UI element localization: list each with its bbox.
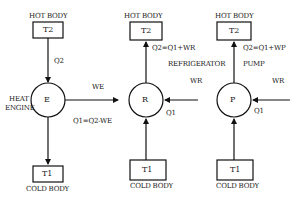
engine-name-line1: HEAT xyxy=(9,96,29,103)
pump-q2-label: Q2=Q1+WP xyxy=(243,45,285,52)
engine-q2-label: Q2 xyxy=(54,58,64,65)
engine-name-line2: ENGINE xyxy=(5,105,35,112)
pump-hot-label: HOT BODY xyxy=(215,13,253,20)
pump-hot-box-text: T2 xyxy=(229,27,239,35)
engine-q1-label: Q1=Q2-WE xyxy=(73,118,112,125)
refrigerator-q2-label: Q2=Q1+WR xyxy=(152,45,195,52)
pump-work-label: WR xyxy=(272,78,284,85)
refrigerator-q1-label: Q1 xyxy=(166,110,176,117)
refrigerator-hot-box-text: T2 xyxy=(141,27,151,35)
engine-work-label: WE xyxy=(92,84,104,91)
engine-hot-label: HOT BODY xyxy=(29,13,67,20)
pump-name-label: PUMP xyxy=(243,61,265,68)
pump-cold-box-text: T1 xyxy=(230,166,240,174)
refrigerator-name-label: REFRIGERATOR xyxy=(168,61,225,68)
refrigerator-work-label: WR xyxy=(190,78,202,85)
refrigerator-hot-label: HOT BODY xyxy=(124,13,162,20)
engine-cold-box-text: T1 xyxy=(42,170,52,178)
refrigerator-node-label: R xyxy=(142,96,148,104)
refrigerator-cold-box-text: T1 xyxy=(142,166,152,174)
engine-node-label: E xyxy=(44,96,50,104)
pump-cold-label: COLD BODY xyxy=(216,183,259,190)
engine-cold-label: COLD BODY xyxy=(26,186,69,193)
engine-hot-box-text: T2 xyxy=(43,26,53,34)
diagram-canvas: HOT BODY T2 Q2 E HEAT ENGINE WE Q1=Q2-WE… xyxy=(0,0,296,199)
pump-q1-label: Q1 xyxy=(254,108,264,115)
pump-node-label: P xyxy=(230,96,235,104)
refrigerator-cold-label: COLD BODY xyxy=(130,183,173,190)
